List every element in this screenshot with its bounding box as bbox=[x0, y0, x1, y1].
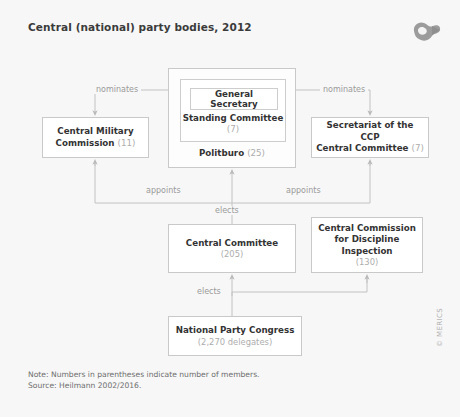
politburo-count: (25) bbox=[247, 148, 265, 158]
node-secretariat: Secretariat of the CCP Central Committee… bbox=[311, 117, 429, 158]
secretariat-line1: Secretariat of the CCP bbox=[327, 120, 414, 142]
ccdi-line1: Central Commission bbox=[318, 223, 416, 233]
standing-committee-count: (7) bbox=[227, 124, 239, 134]
footer-source: Source: Heilmann 2002/2016. bbox=[28, 380, 260, 391]
secretariat-count: (7) bbox=[412, 143, 424, 153]
cmc-line1: Central Military bbox=[57, 126, 133, 136]
cmc-line2: Commission bbox=[56, 138, 115, 148]
secretariat-text: Secretariat of the CCP Central Committee… bbox=[312, 120, 428, 155]
central-committee-count: (205) bbox=[221, 249, 244, 259]
npc-label: National Party Congress bbox=[172, 325, 299, 337]
edge-label-nominates-right: nominates bbox=[320, 85, 368, 94]
politburo-caption: Politburo (25) bbox=[169, 148, 295, 158]
edge-label-appoints-right: appoints bbox=[283, 186, 324, 195]
edge-label-elects-politburo: elects bbox=[212, 206, 242, 215]
standing-committee-label: Standing Committee bbox=[183, 113, 284, 123]
node-national-party-congress: National Party Congress (2,270 delegates… bbox=[168, 316, 302, 356]
node-central-committee: Central Committee (205) bbox=[168, 224, 296, 273]
ccdi-line2: for Discipline Inspection bbox=[335, 234, 400, 256]
secretariat-line2: Central Committee bbox=[316, 143, 408, 153]
edge-label-elects-npc: elects bbox=[194, 287, 224, 296]
footer-note: Note: Numbers in parentheses indicate nu… bbox=[28, 369, 260, 380]
cmc-text: Central Military Commission (11) bbox=[52, 126, 140, 149]
node-general-secretary: General Secretary bbox=[190, 88, 278, 110]
node-central-military-commission: Central Military Commission (11) bbox=[42, 117, 149, 158]
ccdi-count: (130) bbox=[356, 257, 379, 267]
ccdi-text: Central Commission for Discipline Inspec… bbox=[312, 223, 422, 258]
node-politburo: General Secretary Standing Committee (7)… bbox=[168, 68, 296, 168]
diagram-page: Central (national) party bodies, 2012 bbox=[0, 0, 460, 417]
edge-label-appoints-left: appoints bbox=[143, 186, 184, 195]
central-committee-label: Central Committee bbox=[182, 238, 282, 250]
npc-count: (2,270 delegates) bbox=[198, 337, 272, 347]
standing-committee-caption: Standing Committee (7) bbox=[181, 113, 285, 135]
edge-label-nominates-left: nominates bbox=[93, 85, 141, 94]
footer-notes: Note: Numbers in parentheses indicate nu… bbox=[28, 369, 260, 391]
node-ccdi: Central Commission for Discipline Inspec… bbox=[311, 217, 423, 273]
node-standing-committee: General Secretary Standing Committee (7) bbox=[180, 79, 286, 142]
cmc-count: (11) bbox=[118, 138, 136, 148]
politburo-label: Politburo bbox=[199, 148, 244, 158]
copyright-mark: © MERICS bbox=[436, 308, 444, 347]
